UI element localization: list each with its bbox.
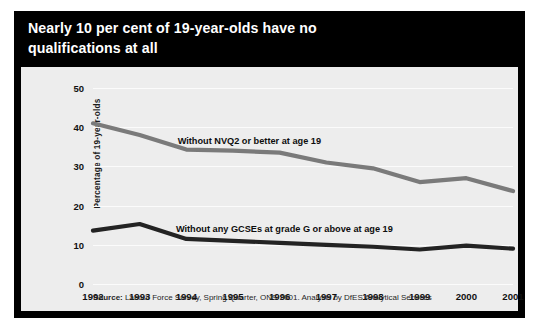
- series-line: [93, 123, 513, 191]
- series-lines: [93, 88, 513, 284]
- x-axis-tick-label: 2001: [502, 291, 523, 302]
- chart-frame: Percentage of 19-year-olds 01020304050 1…: [14, 67, 525, 318]
- title-banner: Nearly 10 per cent of 19-year-olds have …: [14, 11, 525, 67]
- y-axis-tick-label: 20: [73, 200, 84, 211]
- chart-plot-background: Percentage of 19-year-olds 01020304050 1…: [21, 67, 518, 311]
- series-annotation-gcse: Without any GCSEs at grade G or above at…: [176, 224, 393, 234]
- source-label: Source:: [93, 293, 123, 302]
- source-text: Labour Force Survey, Spring Quarter, ONS…: [123, 293, 432, 302]
- plot-area: 01020304050 1992199319941995199619971998…: [93, 88, 513, 284]
- y-axis-tick-label: 10: [73, 239, 84, 250]
- series-annotation-nvq2: Without NVQ2 or better at age 19: [178, 136, 321, 146]
- page-title: Nearly 10 per cent of 19-year-olds have …: [28, 18, 511, 58]
- y-axis-tick-label: 30: [73, 161, 84, 172]
- y-axis-tick-label: 0: [79, 279, 84, 290]
- chart-figure: Nearly 10 per cent of 19-year-olds have …: [0, 0, 539, 330]
- y-axis-tick-label: 40: [73, 122, 84, 133]
- x-axis-tick-label: 2000: [456, 291, 477, 302]
- source-note: Source: Labour Force Survey, Spring Quar…: [93, 293, 432, 302]
- gridline: [93, 284, 513, 285]
- y-axis-tick-label: 50: [73, 83, 84, 94]
